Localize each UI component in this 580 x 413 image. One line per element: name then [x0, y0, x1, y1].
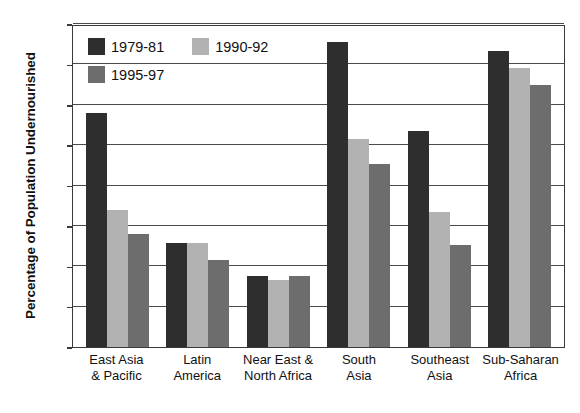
x-axis-tick-label-line: & Pacific: [76, 368, 157, 384]
x-axis-tick-label-line: Africa: [480, 368, 561, 384]
legend-label: 1990-92: [215, 39, 268, 55]
bar: [208, 260, 229, 347]
legend-swatch-icon: [88, 38, 105, 55]
chart-container: Percentage of Population Undernourished …: [0, 0, 580, 413]
bar: [86, 113, 107, 347]
bar: [509, 68, 530, 347]
legend-item-1979-81: 1979-81: [88, 38, 164, 55]
x-axis-tick-label-line: South: [318, 352, 399, 368]
bar: [268, 280, 289, 347]
x-axis-tick-label-line: Asia: [399, 368, 480, 384]
bar: [166, 243, 187, 347]
legend-swatch-icon: [192, 38, 209, 55]
bar: [187, 243, 208, 347]
legend-row-2: 1995-97: [88, 66, 318, 83]
legend-label: 1995-97: [111, 67, 164, 83]
x-axis-tick-label-line: Near East &: [238, 352, 319, 368]
bar-group: [488, 26, 551, 347]
bar-group: [408, 26, 471, 347]
bar: [327, 42, 348, 347]
x-axis-tick-label-line: Latin: [157, 352, 238, 368]
x-axis-tick-label-line: Southeast: [399, 352, 480, 368]
gridline: [73, 23, 564, 24]
legend-item-1990-92: 1990-92: [192, 38, 268, 55]
bar-group: [327, 26, 390, 347]
x-axis-tick-label: East Asia& Pacific: [76, 352, 157, 410]
x-axis-tick-label-line: East Asia: [76, 352, 157, 368]
bar: [530, 85, 551, 347]
bar: [450, 245, 471, 347]
bar: [107, 210, 128, 347]
x-axis-tick-label: SouthAsia: [318, 352, 399, 410]
x-axis-tick-label-line: North Africa: [238, 368, 319, 384]
x-axis-tick-label: SoutheastAsia: [399, 352, 480, 410]
x-axis-labels: East Asia& PacificLatinAmericaNear East …: [72, 352, 565, 410]
bar: [408, 131, 429, 347]
x-axis-tick-label: Sub-SaharanAfrica: [480, 352, 561, 410]
bar: [348, 139, 369, 347]
x-axis-tick-label-line: Sub-Saharan: [480, 352, 561, 368]
legend-swatch-icon: [88, 66, 105, 83]
legend-label: 1979-81: [111, 39, 164, 55]
chart-legend: 1979-81 1990-92 1995-97: [88, 38, 318, 94]
bar: [369, 164, 390, 347]
x-axis-tick-label: LatinAmerica: [157, 352, 238, 410]
legend-row-1: 1979-81 1990-92: [88, 38, 318, 55]
bar: [429, 212, 450, 347]
legend-item-1995-97: 1995-97: [88, 66, 164, 83]
x-axis-tick-label-line: America: [157, 368, 238, 384]
bar: [247, 276, 268, 347]
x-axis-tick-label: Near East &North Africa: [238, 352, 319, 410]
bar: [289, 276, 310, 347]
bar: [488, 51, 509, 347]
x-axis-tick-label-line: Asia: [318, 368, 399, 384]
bar: [128, 234, 149, 347]
